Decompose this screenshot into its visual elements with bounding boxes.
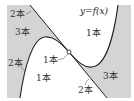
region-label-top-left: 3本 bbox=[15, 26, 30, 37]
region-label-tangent-lower: 2本 bbox=[78, 84, 93, 95]
region-label-lower-center: 1本 bbox=[36, 72, 51, 83]
leader-line-inflection bbox=[58, 54, 68, 60]
region-label-top-left-edge: 2本 bbox=[10, 8, 25, 19]
region-label-upper-right: 1本 bbox=[86, 27, 101, 38]
inflection-point bbox=[67, 50, 71, 54]
region-label-left-edge: 2本 bbox=[8, 57, 23, 68]
region-label-lower-right: 3本 bbox=[103, 70, 118, 81]
region-label-inflection: 1本 bbox=[43, 54, 58, 65]
curve-label: y=f(x) bbox=[79, 6, 109, 16]
tangent-count-diagram: y=f(x) 2本 3本 2本 1本 1本 1本 3本 2本 bbox=[0, 0, 134, 101]
